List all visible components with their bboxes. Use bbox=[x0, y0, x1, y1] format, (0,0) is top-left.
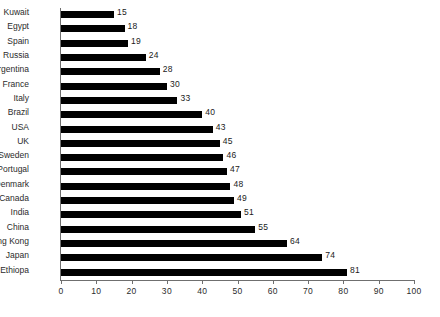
category-label: India bbox=[0, 207, 29, 218]
bar-value-label: 81 bbox=[350, 265, 360, 276]
bar-value-label: 18 bbox=[128, 21, 138, 32]
x-axis-tick bbox=[414, 280, 415, 284]
bar bbox=[61, 111, 202, 118]
x-axis-tick bbox=[343, 280, 344, 284]
bar-row: China55 bbox=[61, 223, 414, 236]
bar-row: Italy33 bbox=[61, 94, 414, 107]
category-label: UK bbox=[0, 136, 29, 147]
bar bbox=[61, 254, 322, 261]
category-label: Kuwait bbox=[0, 7, 29, 18]
x-axis-tick-label: 90 bbox=[359, 286, 399, 297]
plot-area: Kuwait15Egypt18Spain19Russia24Argentina2… bbox=[61, 8, 414, 280]
x-axis-tick-label: 20 bbox=[112, 286, 152, 297]
bar-value-label: 64 bbox=[290, 236, 300, 247]
bar-value-label: 47 bbox=[230, 164, 240, 175]
bar-value-label: 19 bbox=[131, 36, 141, 47]
x-axis-tick-label: 80 bbox=[323, 286, 363, 297]
bar-row: Japan74 bbox=[61, 251, 414, 264]
bar bbox=[61, 240, 287, 247]
bar bbox=[61, 269, 347, 276]
bar-value-label: 49 bbox=[237, 193, 247, 204]
bar-row: Hong Kong64 bbox=[61, 237, 414, 250]
bar bbox=[61, 11, 114, 18]
x-axis-tick bbox=[379, 280, 380, 284]
category-label: Argentina bbox=[0, 64, 29, 75]
bar bbox=[61, 154, 223, 161]
category-label: Japan bbox=[0, 250, 29, 261]
bar bbox=[61, 25, 125, 32]
category-label: USA bbox=[0, 122, 29, 133]
x-axis-tick-label: 30 bbox=[147, 286, 187, 297]
bar bbox=[61, 168, 227, 175]
x-axis-tick-label: 40 bbox=[182, 286, 222, 297]
bar-value-label: 40 bbox=[205, 107, 215, 118]
bar-row: UK45 bbox=[61, 137, 414, 150]
x-axis-tick-label: 100 bbox=[394, 286, 434, 297]
x-axis-tick bbox=[202, 280, 203, 284]
category-label: Spain bbox=[0, 36, 29, 47]
x-axis-tick bbox=[308, 280, 309, 284]
bar bbox=[61, 54, 146, 61]
bar-value-label: 45 bbox=[223, 136, 233, 147]
bar-row: Brazil40 bbox=[61, 108, 414, 121]
x-axis-tick-label: 60 bbox=[253, 286, 293, 297]
bar-row: Kuwait15 bbox=[61, 8, 414, 21]
bar-row: France30 bbox=[61, 80, 414, 93]
bar bbox=[61, 97, 177, 104]
x-axis-tick-label: 50 bbox=[218, 286, 258, 297]
x-axis-tick bbox=[132, 280, 133, 284]
bar bbox=[61, 126, 213, 133]
y-axis-line bbox=[60, 8, 61, 281]
x-axis-tick bbox=[61, 280, 62, 284]
bar-row: Egypt18 bbox=[61, 22, 414, 35]
bar bbox=[61, 226, 255, 233]
bar-row: Canada49 bbox=[61, 194, 414, 207]
x-axis-tick-label: 0 bbox=[41, 286, 81, 297]
bar-value-label: 15 bbox=[117, 7, 127, 18]
bar-row: India51 bbox=[61, 208, 414, 221]
bar bbox=[61, 140, 220, 147]
bar-row: USA43 bbox=[61, 123, 414, 136]
bar bbox=[61, 211, 241, 218]
bar-row: Denmark48 bbox=[61, 180, 414, 193]
category-label: China bbox=[0, 222, 29, 233]
bar bbox=[61, 68, 160, 75]
bar-value-label: 43 bbox=[216, 122, 226, 133]
category-label: Egypt bbox=[0, 21, 29, 32]
x-axis-tick bbox=[238, 280, 239, 284]
bar-row: Argentina28 bbox=[61, 65, 414, 78]
bar-value-label: 74 bbox=[325, 250, 335, 261]
bar-value-label: 55 bbox=[258, 222, 268, 233]
bar-value-label: 51 bbox=[244, 207, 254, 218]
bar bbox=[61, 40, 128, 47]
category-label: Russia bbox=[0, 50, 29, 61]
bar-row: Russia24 bbox=[61, 51, 414, 64]
bar-value-label: 48 bbox=[233, 179, 243, 190]
bar-value-label: 28 bbox=[163, 64, 173, 75]
bar-row: Spain19 bbox=[61, 37, 414, 50]
bar-row: Sweden46 bbox=[61, 151, 414, 164]
category-label: France bbox=[0, 79, 29, 90]
bar bbox=[61, 197, 234, 204]
bar-row: Ethiopa81 bbox=[61, 266, 414, 279]
bar-chart: Kuwait15Egypt18Spain19Russia24Argentina2… bbox=[0, 0, 440, 317]
category-label: Denmark bbox=[0, 179, 29, 190]
category-label: Portugal bbox=[0, 164, 29, 175]
x-axis-tick bbox=[273, 280, 274, 284]
bar-value-label: 30 bbox=[170, 79, 180, 90]
category-label: Ethiopa bbox=[0, 265, 29, 276]
category-label: Hong Kong bbox=[0, 236, 29, 247]
category-label: Italy bbox=[0, 93, 29, 104]
category-label: Sweden bbox=[0, 150, 29, 161]
bar bbox=[61, 83, 167, 90]
bar-value-label: 46 bbox=[226, 150, 236, 161]
x-axis-tick bbox=[167, 280, 168, 284]
bar-row: Portugal47 bbox=[61, 165, 414, 178]
category-label: Canada bbox=[0, 193, 29, 204]
x-axis-tick-label: 70 bbox=[288, 286, 328, 297]
bar-value-label: 33 bbox=[180, 93, 190, 104]
x-axis-tick-label: 10 bbox=[76, 286, 116, 297]
bar bbox=[61, 183, 230, 190]
bar-value-label: 24 bbox=[149, 50, 159, 61]
x-axis-tick bbox=[96, 280, 97, 284]
